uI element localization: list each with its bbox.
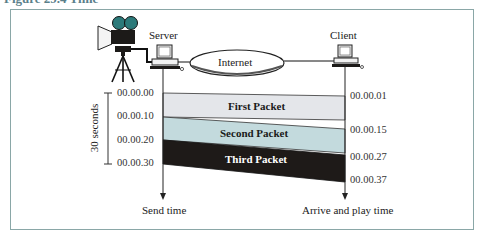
send-time-label: Send time bbox=[142, 204, 186, 216]
send-tick-0: 00.00.00 bbox=[117, 87, 154, 98]
arrive-tick-2: 00.00.27 bbox=[350, 151, 387, 162]
arrive-tick-0: 00.00.01 bbox=[350, 90, 387, 101]
arrive-play-time-label: Arrive and play time bbox=[302, 204, 393, 216]
timeline-diagram bbox=[0, 0, 482, 237]
second-packet-label: Second Packet bbox=[220, 127, 288, 139]
send-tick-1: 00.00.10 bbox=[117, 110, 154, 121]
client-computer-icon bbox=[332, 45, 364, 69]
arrive-tick-3: 00.00.37 bbox=[350, 174, 387, 185]
thirty-second-bracket bbox=[104, 93, 112, 164]
video-camera-icon bbox=[98, 17, 138, 57]
bracket-label: 30 seconds bbox=[88, 98, 100, 158]
first-packet-label: First Packet bbox=[228, 100, 285, 112]
server-label: Server bbox=[149, 29, 178, 41]
server-computer-icon bbox=[150, 45, 184, 71]
send-tick-3: 00.00.30 bbox=[117, 157, 154, 168]
client-label: Client bbox=[330, 29, 357, 41]
third-packet-label: Third Packet bbox=[225, 153, 287, 165]
send-tick-2: 00.00.20 bbox=[117, 134, 154, 145]
arrive-tick-1: 00.00.15 bbox=[350, 124, 387, 135]
tripod-icon bbox=[112, 56, 134, 82]
internet-label: Internet bbox=[218, 56, 252, 68]
